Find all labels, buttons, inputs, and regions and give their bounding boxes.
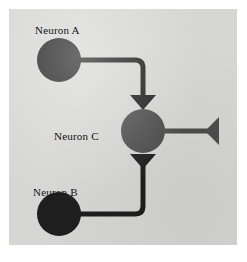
diagram-panel: Neuron A Neuron B Neuron C — [9, 9, 237, 245]
neuron-c-soma — [121, 109, 165, 153]
neuron-c-label: Neuron C — [54, 131, 99, 142]
neuron-b-soma — [37, 192, 81, 236]
synapse-terminal-a-icon — [130, 95, 156, 110]
synapse-terminal-b-icon — [130, 154, 156, 169]
diagram-canvas — [9, 9, 237, 245]
neuron-a-soma — [37, 38, 81, 82]
neuron-a-label: Neuron A — [35, 25, 80, 36]
figure-root: Neuron A Neuron B Neuron C — [0, 0, 247, 262]
output-terminal-c-icon — [205, 117, 219, 145]
neuron-b-label: Neuron B — [33, 187, 78, 198]
